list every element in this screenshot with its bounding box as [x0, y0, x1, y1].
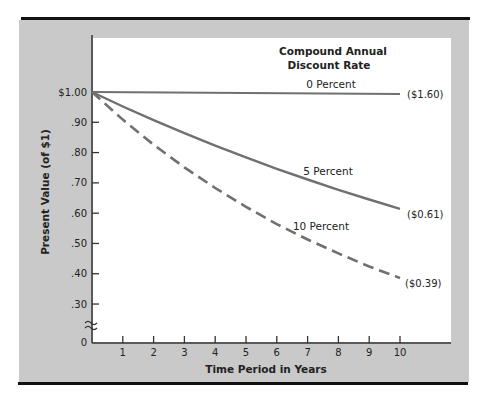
x-axis-label: Time Period in Years: [205, 363, 326, 375]
legend-title-line2: Discount Rate: [288, 59, 371, 71]
x-tick-label: 8: [335, 347, 341, 358]
x-tick-label: 5: [243, 347, 249, 358]
series-0-percent-line: [92, 92, 400, 94]
y-tick-label: .30: [71, 299, 87, 310]
x-tick-label: 7: [304, 347, 310, 358]
series-10-end-label: ($0.39): [405, 278, 442, 289]
axis-break-icon: [85, 322, 97, 330]
chart: $1.00.90.80.70.60.50.40.300 12345678910 …: [0, 0, 486, 396]
y-tick-label: .60: [71, 208, 87, 219]
x-tick-label: 10: [394, 347, 407, 358]
y-tick-label: .90: [71, 117, 87, 128]
series-0-end-label: ($1.60): [407, 89, 444, 100]
y-axis-label: Present Value (of $1): [39, 129, 51, 255]
series-10-label: 10 Percent: [293, 220, 349, 232]
x-tick-label: 4: [212, 347, 218, 358]
y-tick-label: $1.00: [58, 87, 87, 98]
x-tick-label: 2: [150, 347, 156, 358]
y-ticks: $1.00.90.80.70.60.50.40.300: [58, 87, 99, 349]
series-0-label: 0 Percent: [306, 78, 356, 90]
y-tick-label: .70: [71, 177, 87, 188]
series-5-end-label: ($0.61): [407, 209, 444, 220]
series-5-percent-line: [92, 92, 400, 209]
series-5-label: 5 Percent: [303, 165, 353, 177]
y-tick-label: .40: [71, 268, 87, 279]
x-tick-label: 9: [366, 347, 372, 358]
x-ticks: 12345678910: [120, 336, 407, 358]
series-10-percent-line: [92, 92, 400, 278]
y-tick-label-zero: 0: [81, 337, 87, 348]
y-tick-label: .50: [71, 238, 87, 249]
x-tick-label: 1: [120, 347, 126, 358]
x-tick-label: 3: [181, 347, 187, 358]
legend-title-line1: Compound Annual: [279, 45, 387, 57]
y-tick-label: .80: [71, 147, 87, 158]
x-tick-label: 6: [274, 347, 280, 358]
